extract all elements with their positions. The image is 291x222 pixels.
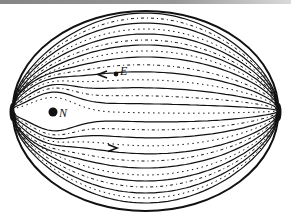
dashed-meridian-line — [12, 110, 279, 175]
dashed-meridian-line — [12, 51, 279, 111]
direction-arrows — [98, 71, 117, 152]
left-pole — [10, 103, 15, 121]
point-N-marker — [49, 108, 58, 117]
solid-meridian-line — [12, 57, 279, 111]
point-N-label: N — [58, 106, 68, 120]
solid-meridian-line — [12, 72, 279, 111]
ellipsoid-field-diagram: EN — [0, 0, 291, 222]
arrow-left-icon — [98, 71, 107, 78]
point-E-label: E — [119, 64, 128, 78]
dashed-meridian-line — [12, 88, 279, 111]
arrow-right-icon — [108, 145, 117, 152]
point-E-marker — [114, 72, 119, 77]
right-pole — [277, 103, 282, 121]
dashed-meridian-line — [12, 29, 279, 111]
